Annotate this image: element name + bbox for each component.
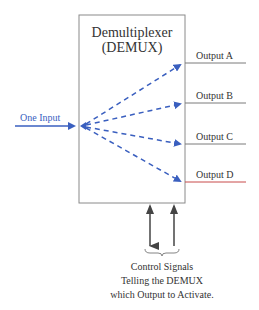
control-text-line1: Control Signals [131,261,194,272]
demux-title-line2: (DEMUX) [102,40,163,56]
output-label-c: Output C [196,131,233,142]
control-text-line2: Telling the DEMUX [121,275,204,286]
control-arrowhead-1-icon [146,204,154,214]
demux-title-line1: Demultiplexer [92,25,173,40]
output-label-b: Output B [196,90,233,101]
output-label-d: Output D [196,169,234,180]
demux-diagram: Demultiplexer (DEMUX) One Input Output A… [0,0,259,310]
control-brace-icon [145,249,179,256]
control-text-line3: which Output to Activate. [110,289,213,300]
output-label-a: Output A [196,50,234,61]
input-label: One Input [20,112,60,123]
control-arrowhead-2-icon [170,204,178,214]
